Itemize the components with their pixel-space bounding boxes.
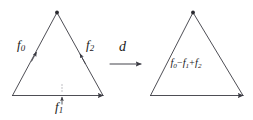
edge-label-f2-subscript: 2 bbox=[90, 43, 94, 53]
edge-direction-arrow-f0 bbox=[32, 52, 37, 61]
figure-container: f0 f2 f1 d f0−f1+f2 bbox=[0, 0, 253, 120]
left-triangle bbox=[13, 11, 104, 105]
triangle-edge-f0 bbox=[13, 13, 58, 96]
edge-label-f2: f2 bbox=[86, 38, 94, 53]
sum-term-2-subscript: 2 bbox=[198, 62, 202, 70]
diagram-canvas bbox=[0, 0, 253, 120]
right-triangle bbox=[151, 11, 244, 96]
vertex-apex-left bbox=[55, 11, 59, 15]
edge-label-f0: f0 bbox=[17, 38, 25, 53]
edge-label-f1-subscript: 1 bbox=[59, 105, 63, 115]
edge-direction-arrow-f2 bbox=[80, 54, 86, 64]
triangle-edge-right-right-shape bbox=[193, 13, 243, 96]
vertex-apex-right bbox=[191, 11, 195, 15]
edge-label-f0-subscript: 0 bbox=[21, 43, 25, 53]
triangle-edge-left-right-shape bbox=[151, 13, 194, 96]
interior-label-sum: f0−f1+f2 bbox=[170, 58, 201, 70]
operator-label-d: d bbox=[119, 40, 126, 54]
edge-label-f1: f1 bbox=[55, 100, 63, 115]
